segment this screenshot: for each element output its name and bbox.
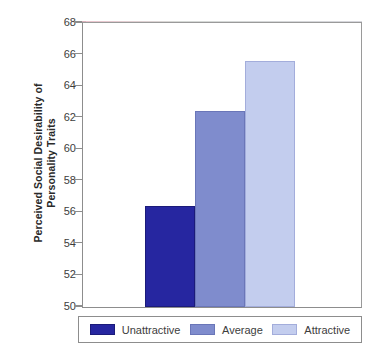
legend-label-average: Average xyxy=(222,324,263,336)
y-axis-title-line-2: Personality Traits xyxy=(45,33,58,293)
y-tick-label-52: 52 xyxy=(36,268,76,280)
y-tick-label-64: 64 xyxy=(36,79,76,91)
legend-label-unattractive: Unattractive xyxy=(122,324,181,336)
y-tick-label-60: 60 xyxy=(36,142,76,154)
y-axis-title-line-1: Perceived Social Desirability of xyxy=(32,33,45,293)
legend-item-unattractive[interactable]: Unattractive xyxy=(90,324,181,336)
bar-unattractive xyxy=(145,206,195,307)
legend-label-attractive: Attractive xyxy=(304,324,350,336)
y-tick-label-56: 56 xyxy=(36,205,76,217)
legend-swatch-attractive-icon xyxy=(272,324,297,335)
legend-item-average[interactable]: Average xyxy=(190,324,263,336)
bar-chart-figure: Perceived Social Desirability of Persona… xyxy=(0,0,380,355)
y-tick-label-54: 54 xyxy=(36,237,76,249)
bar-average xyxy=(195,111,245,307)
legend-swatch-average-icon xyxy=(190,324,215,335)
legend-swatch-unattractive-icon xyxy=(90,324,115,335)
plot-area xyxy=(82,22,362,308)
bar-attractive xyxy=(245,61,295,307)
y-tick-label-62: 62 xyxy=(36,111,76,123)
y-tick-label-58: 58 xyxy=(36,174,76,186)
y-tick-label-66: 66 xyxy=(36,48,76,60)
y-tick-label-50: 50 xyxy=(36,300,76,312)
y-axis-title: Perceived Social Desirability of Persona… xyxy=(32,33,58,293)
chart-legend: Unattractive Average Attractive xyxy=(78,316,362,343)
legend-item-attractive[interactable]: Attractive xyxy=(272,324,350,336)
y-tick-label-68: 68 xyxy=(36,16,76,28)
